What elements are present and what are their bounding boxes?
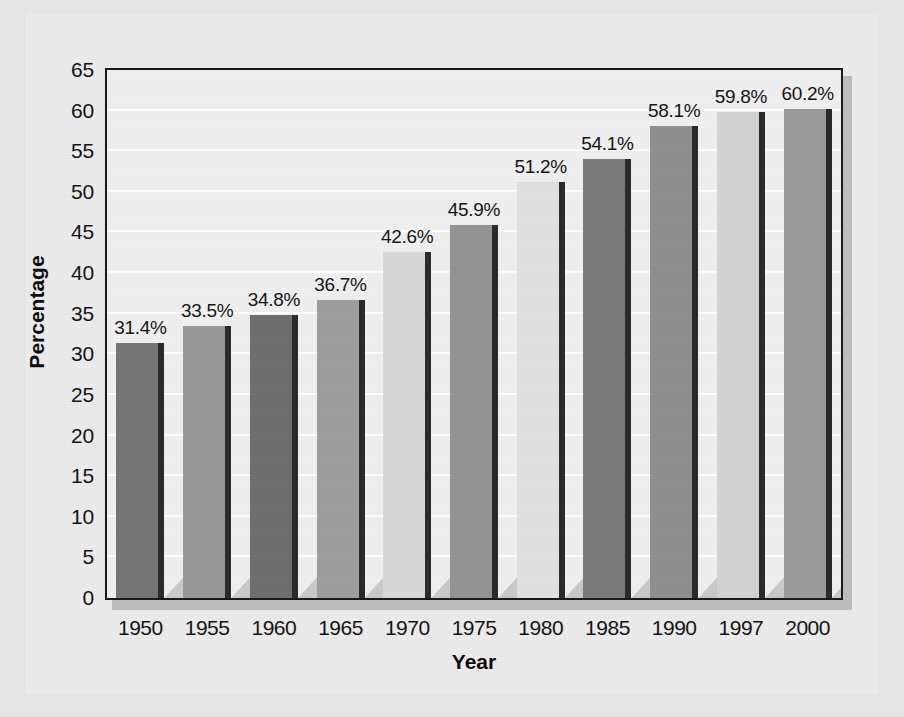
y-axis-tick-label: 50 <box>71 181 94 202</box>
bar-front-face <box>383 252 425 598</box>
y-axis-tick-label: 10 <box>71 506 94 527</box>
bar-side-face <box>225 326 231 598</box>
bar[interactable] <box>717 112 787 598</box>
x-axis-title: Year <box>105 650 843 674</box>
bar-value-label: 45.9% <box>426 199 522 221</box>
bar-front-face <box>650 126 692 598</box>
bar-drop-shadow <box>832 572 843 598</box>
bar-front-face <box>116 343 158 598</box>
y-axis-tick-label: 15 <box>71 465 94 486</box>
bar[interactable] <box>317 300 387 598</box>
bar-side-face <box>625 159 631 598</box>
bar-front-face <box>717 112 759 598</box>
plot-area <box>105 68 843 600</box>
bar-side-face <box>826 109 832 598</box>
bar[interactable] <box>784 109 843 598</box>
y-axis-tick-label: 20 <box>71 425 94 446</box>
bar[interactable] <box>116 343 186 598</box>
bar[interactable] <box>183 326 253 598</box>
y-axis-tick-label: 30 <box>71 343 94 364</box>
y-axis-tick-label: 40 <box>71 262 94 283</box>
y-axis-tick-label: 25 <box>71 384 94 405</box>
bar-side-face <box>759 112 765 598</box>
bar-side-face <box>158 343 164 598</box>
y-axis-tick-label: 35 <box>71 303 94 324</box>
bar-side-face <box>425 252 431 598</box>
bar-value-label: 60.2% <box>760 83 856 105</box>
y-axis-tick-label: 65 <box>71 59 94 80</box>
bar-side-face <box>692 126 698 598</box>
bar-side-face <box>492 225 498 598</box>
x-axis-tick-label: 2000 <box>763 616 853 640</box>
chart-page: 65605550454035302520151050 1950195519601… <box>0 0 904 717</box>
y-axis-tick-label: 60 <box>71 100 94 121</box>
y-axis-title: Percentage <box>25 212 49 412</box>
bar[interactable] <box>250 315 320 598</box>
bar-front-face <box>183 326 225 598</box>
bar[interactable] <box>650 126 720 598</box>
bar[interactable] <box>583 159 653 598</box>
bar-front-face <box>583 159 625 598</box>
bar-value-label: 42.6% <box>359 226 455 248</box>
bar-front-face <box>450 225 492 598</box>
bar-value-label: 54.1% <box>559 133 655 155</box>
bar-value-label: 51.2% <box>493 156 589 178</box>
bar-front-face <box>250 315 292 598</box>
bar-front-face <box>517 182 559 598</box>
bar[interactable] <box>383 252 453 598</box>
bars-layer <box>107 70 841 598</box>
bar[interactable] <box>450 225 520 598</box>
bar[interactable] <box>517 182 587 598</box>
y-axis-tick-label: 55 <box>71 140 94 161</box>
y-axis-tick-labels: 65605550454035302520151050 <box>46 0 94 717</box>
y-axis-tick-label: 0 <box>83 587 94 608</box>
bar-front-face <box>784 109 826 598</box>
y-axis-tick-label: 45 <box>71 221 94 242</box>
bar-side-face <box>292 315 298 598</box>
bar-value-label: 36.7% <box>293 274 389 296</box>
y-axis-tick-label: 5 <box>83 546 94 567</box>
bar-side-face <box>559 182 565 598</box>
bar-front-face <box>317 300 359 598</box>
bar-side-face <box>359 300 365 598</box>
